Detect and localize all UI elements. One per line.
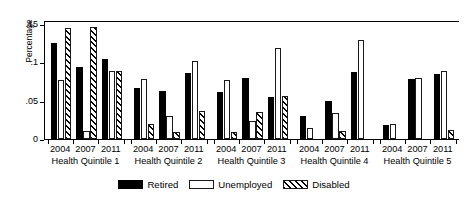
bars-container <box>45 22 459 139</box>
bar-unemployed <box>109 71 115 139</box>
year-group <box>265 22 290 139</box>
year-group <box>49 22 74 139</box>
x-label-quintile: Health Quintile 2 <box>127 155 210 167</box>
bar-disabled <box>282 96 288 139</box>
x-label-year: 2007 <box>239 143 264 155</box>
bar-unemployed <box>358 40 364 139</box>
x-label-year: 2007 <box>73 143 98 155</box>
y-axis-tick: .05 <box>0 102 44 103</box>
year-group <box>74 22 99 139</box>
x-label-year: 2004 <box>48 143 73 155</box>
bar-retired <box>51 43 57 139</box>
year-group <box>157 22 182 139</box>
x-label-year: 2007 <box>156 143 181 155</box>
year-group <box>132 22 157 139</box>
legend-item: Retired <box>118 179 178 190</box>
legend-label: Unemployed <box>218 179 272 190</box>
quintile-group <box>128 22 211 139</box>
legend-swatch-disabled <box>283 180 308 189</box>
year-group <box>99 22 124 139</box>
bar-disabled <box>448 130 454 139</box>
x-label-quintile: Health Quintile 5 <box>376 155 459 167</box>
bar-disabled <box>199 111 205 139</box>
bar-retired <box>383 125 389 139</box>
y-tick-label: 0 <box>33 134 38 145</box>
bar-disabled <box>65 28 71 139</box>
x-label-year: 2004 <box>131 143 156 155</box>
year-group <box>406 22 431 139</box>
x-label-year: 2011 <box>181 143 206 155</box>
year-group <box>381 22 406 139</box>
bar-retired <box>300 116 306 139</box>
year-group <box>431 22 456 139</box>
legend-swatch-retired <box>118 180 143 189</box>
bar-unemployed <box>275 48 281 139</box>
x-axis-tick <box>456 140 457 144</box>
plot-area <box>44 21 459 140</box>
x-axis-tick <box>373 140 374 144</box>
quintile-group <box>377 22 460 139</box>
bar-retired <box>325 101 331 139</box>
x-axis-tick <box>290 140 291 144</box>
bar-disabled <box>231 132 237 139</box>
year-group <box>348 22 373 139</box>
year-group <box>298 22 323 139</box>
x-label-year: 2011 <box>347 143 372 155</box>
bar-unemployed <box>192 61 198 139</box>
bar-unemployed <box>224 80 230 139</box>
bar-unemployed <box>307 128 313 139</box>
quintile-group <box>294 22 377 139</box>
legend-swatch-unemployed <box>189 180 214 189</box>
bar-unemployed <box>390 124 396 139</box>
bar-unemployed <box>141 79 147 139</box>
x-label-quintile: Health Quintile 4 <box>293 155 376 167</box>
x-label-year: 2004 <box>380 143 405 155</box>
bar-disabled <box>148 124 154 139</box>
x-label-year: 2007 <box>405 143 430 155</box>
quintile-group <box>211 22 294 139</box>
bar-retired <box>185 73 191 139</box>
bar-unemployed <box>83 131 89 139</box>
x-label-quintile: Health Quintile 1 <box>44 155 127 167</box>
bar-unemployed <box>249 121 255 139</box>
y-axis-tick: .1 <box>0 63 44 64</box>
y-axis-title: Percentage <box>24 0 34 96</box>
bar-retired <box>76 67 82 139</box>
x-label-year: 2004 <box>214 143 239 155</box>
x-label-year: 2007 <box>322 143 347 155</box>
bar-unemployed <box>166 116 172 139</box>
chart-figure: Percentage 0.05.1.15 200420072011Health … <box>0 0 468 205</box>
bar-retired <box>268 97 274 139</box>
bar-retired <box>351 72 357 139</box>
y-axis-tick: 0 <box>0 140 44 141</box>
bar-retired <box>242 78 248 139</box>
legend-item: Unemployed <box>189 179 272 190</box>
quintile-group <box>45 22 128 139</box>
bar-retired <box>217 92 223 139</box>
bar-retired <box>159 91 165 139</box>
y-axis-tick: .15 <box>0 25 44 26</box>
year-group <box>182 22 207 139</box>
x-label-year: 2011 <box>430 143 455 155</box>
bar-retired <box>102 59 108 139</box>
y-tick-label: .05 <box>25 96 38 107</box>
year-group <box>323 22 348 139</box>
y-tick-label: .15 <box>25 19 38 30</box>
x-label-quintile: Health Quintile 3 <box>210 155 293 167</box>
bar-retired <box>408 79 414 139</box>
bar-disabled <box>116 71 122 139</box>
chart-legend: RetiredUnemployedDisabled <box>0 176 468 192</box>
x-axis-tick <box>124 140 125 144</box>
bar-unemployed <box>332 113 338 139</box>
bar-unemployed <box>58 80 64 139</box>
bar-disabled <box>256 112 262 139</box>
year-group <box>240 22 265 139</box>
bar-disabled <box>339 131 345 139</box>
x-label-year: 2011 <box>264 143 289 155</box>
x-axis-tick <box>207 140 208 144</box>
legend-label: Retired <box>147 179 178 190</box>
y-tick-label: .1 <box>30 57 38 68</box>
legend-item: Disabled <box>283 179 349 190</box>
bar-disabled <box>173 132 179 139</box>
bar-disabled <box>90 27 96 139</box>
